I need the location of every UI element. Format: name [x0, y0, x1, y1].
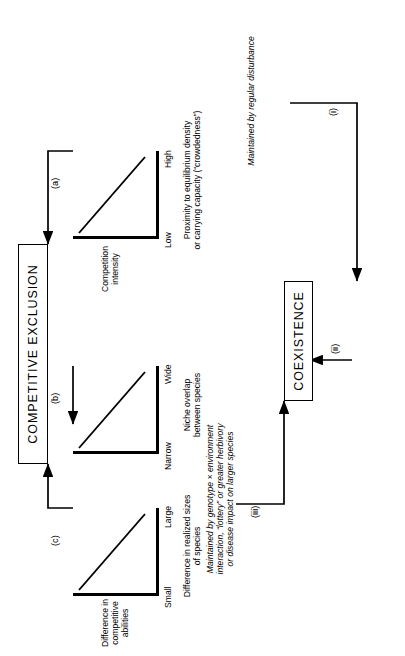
route-iii-label: (iii): [250, 506, 260, 518]
panel-c-xtick-small: Small: [163, 587, 173, 609]
figure-rotation-wrapper: COMPETITIVE EXCLUSION COEXISTENCE (c) Di…: [0, 0, 405, 656]
wire-c-to-exclusion: [48, 464, 73, 508]
wire-a-to-exclusion: [48, 151, 73, 244]
panel-a-xtick-low: Low: [163, 232, 173, 248]
panel-c-trend-line: [73, 508, 159, 596]
panel-c-xtick-large: Large: [163, 506, 173, 528]
wire-iii-to-coexistence: [236, 401, 284, 504]
panel-b-xtick-narrow: Narrow: [163, 442, 173, 470]
panel-b-plot: [73, 366, 159, 454]
panel-c-plot: [73, 508, 159, 596]
panel-c-caption: Difference in realized sizes of species: [182, 476, 202, 616]
panel-a-y-axis-label: Competition intensity: [100, 242, 120, 296]
panel-b-xtick-wide: Wide: [163, 364, 173, 384]
route-iii-note: Maintained by genotype × environment int…: [205, 404, 235, 594]
panel-b-caption: Niche overlap between species: [182, 350, 202, 460]
panel-a-trend-line: [73, 151, 159, 239]
competitive-exclusion-box[interactable]: COMPETITIVE EXCLUSION: [18, 244, 48, 464]
panel-c-y-axis-label: Difference in competitive abilities: [100, 596, 130, 650]
panel-a-caption: Proximity to equilibrium density or carr…: [182, 96, 202, 264]
panel-c-label: (c): [50, 535, 60, 546]
panel-a-xtick-high: High: [163, 150, 173, 168]
wire-i-to-coexistence: [290, 103, 357, 281]
panel-b-trend-line: [73, 366, 159, 454]
route-i-label: (i): [328, 108, 338, 116]
panel-b-label: (b): [50, 393, 60, 404]
panel-a-plot: [73, 151, 159, 239]
connector-wires: [0, 0, 405, 656]
diagram-canvas: COMPETITIVE EXCLUSION COEXISTENCE (c) Di…: [0, 0, 405, 656]
route-ii-label: (ii): [330, 344, 340, 354]
route-i-note: Maintained by regular disturbance: [246, 8, 256, 194]
panel-a-label: (a): [50, 178, 60, 189]
coexistence-box[interactable]: COEXISTENCE: [284, 281, 313, 401]
